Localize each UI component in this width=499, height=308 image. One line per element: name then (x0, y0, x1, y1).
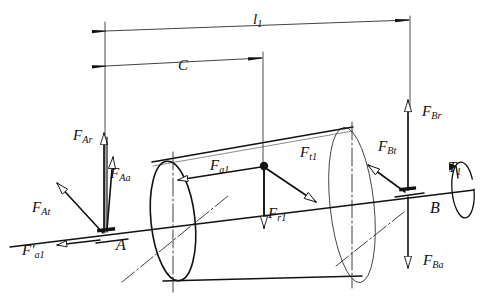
centerline-left-diag (122, 196, 228, 282)
force-label-F_Ar: FAr (73, 128, 92, 145)
force-label-F_At: FAt (32, 200, 50, 217)
forces-at-A (57, 133, 113, 245)
diagram-canvas: l1 C A B FAr FAa FAt F'a1 Fa1 Fr1 Ft1 FB… (0, 0, 499, 308)
cylinder-bottom-edge (163, 276, 362, 281)
force-label-F_r1: Fr1 (268, 206, 286, 223)
dimension-label-l1: l1 (253, 12, 262, 29)
forces-at-B (368, 100, 408, 268)
force-label-F_a1-prime: F'a1 (22, 243, 45, 260)
point-label-B: B (430, 200, 440, 216)
shaft-axis-line (10, 190, 474, 247)
point-label-A: A (116, 237, 126, 253)
force-label-F_Bt: FBt (378, 139, 396, 156)
cylinder-top-edge-2 (153, 131, 353, 166)
force-F_At (57, 183, 103, 233)
force-label-F_a1: Fa1 (210, 158, 229, 175)
centerline-right-diag (336, 212, 404, 266)
force-label-F_Br: FBr (422, 104, 441, 121)
force-F_Bt (368, 165, 405, 192)
cylinder-top-edge (152, 127, 353, 162)
force-label-F_t1: Ft1 (300, 145, 317, 162)
force-label-F_Ba: FBa (423, 253, 444, 270)
torque-label-T1: T1 (448, 160, 461, 177)
force-F_t1 (267, 169, 316, 202)
force-label-F_Aa: FAa (110, 166, 131, 183)
dimension-label-C: C (178, 58, 188, 75)
